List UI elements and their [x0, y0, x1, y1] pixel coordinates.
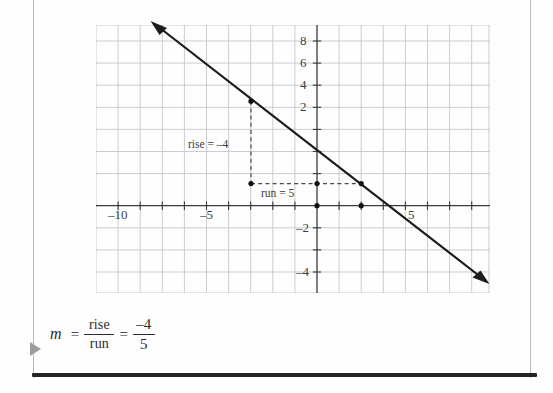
point-marker — [248, 181, 253, 186]
formula-fraction-minus4-over-5: –4 5 — [133, 316, 154, 353]
formula-fraction-rise-over-run: rise run — [84, 317, 114, 351]
x-tick-label--5: –5 — [200, 207, 213, 223]
figure-page: –10 –5 5 8 6 4 2 –2 –4 rise = –4 run = 5… — [0, 0, 553, 393]
formula-numerator-rise: rise — [86, 317, 113, 334]
formula-equals-2: = — [114, 326, 133, 343]
y-tick-label-2: 2 — [300, 99, 307, 115]
formula-denominator-5: 5 — [137, 335, 151, 353]
x-tick-label-5: 5 — [408, 207, 415, 223]
formula-equals-1: = — [66, 326, 85, 343]
y-tick-label--4: –4 — [296, 264, 309, 280]
slope-formula: m = rise run = –4 5 — [50, 316, 155, 353]
axes — [96, 25, 490, 293]
formula-numerator--4: –4 — [133, 316, 154, 334]
grid-lines — [96, 25, 490, 293]
y-tick-label-6: 6 — [300, 55, 307, 71]
y-tick-label-8: 8 — [300, 33, 307, 49]
point-marker — [314, 203, 319, 208]
point-marker — [359, 181, 364, 186]
point-marker — [359, 203, 364, 208]
callout-triangle-icon — [30, 342, 41, 356]
point-marker — [248, 99, 253, 104]
run-annotation-label: run = 5 — [261, 187, 294, 199]
formula-variable-m: m — [50, 325, 66, 343]
y-tick-label--2: –2 — [296, 220, 309, 236]
formula-denominator-run: run — [87, 335, 112, 352]
point-marker — [314, 181, 319, 186]
rise-annotation-label: rise = –4 — [188, 138, 228, 150]
y-tick-label-4: 4 — [300, 77, 307, 93]
x-tick-label--10: –10 — [108, 207, 128, 223]
